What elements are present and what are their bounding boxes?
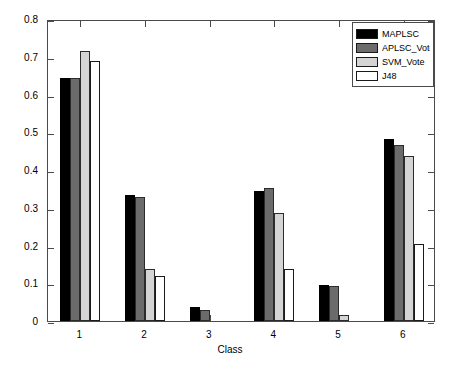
y-tick-mark: [48, 248, 54, 249]
bar-maplsc-class-5: [319, 285, 329, 321]
bar-j48-class-1: [90, 61, 100, 321]
y-tick-label: 0.2: [0, 241, 38, 252]
y-tick-label: 0.7: [0, 52, 38, 63]
y-tick-label: 0: [0, 316, 38, 327]
y-tick-mark-right: [428, 323, 434, 324]
legend-item: APLSC_Vote: [356, 41, 430, 54]
x-tick-mark-top: [80, 21, 81, 27]
bar-j48-class-2: [155, 276, 165, 321]
y-tick-label: 0.8: [0, 14, 38, 25]
x-tick-mark: [210, 315, 211, 321]
x-tick-mark-top: [210, 21, 211, 27]
bar-chart-figure: 00.10.20.30.40.50.60.70.8 123456 Class M…: [0, 0, 460, 366]
x-tick-label: 1: [64, 329, 94, 340]
y-tick-mark-right: [428, 97, 434, 98]
legend-item: SVM_Vote: [356, 55, 430, 68]
x-tick-label: 3: [194, 329, 224, 340]
chart-legend: MAPLSCAPLSC_VoteSVM_VoteJ48: [352, 22, 434, 87]
y-tick-label: 0.6: [0, 90, 38, 101]
y-tick-mark-right: [428, 285, 434, 286]
y-tick-mark-right: [428, 172, 434, 173]
x-tick-mark-top: [145, 21, 146, 27]
y-tick-mark-right: [428, 248, 434, 249]
bar-aplsc_vote-class-5: [329, 286, 339, 321]
legend-swatch-icon: [356, 71, 378, 81]
bar-svm_vote-class-6: [404, 156, 414, 321]
bar-aplsc_vote-class-4: [264, 188, 274, 321]
x-tick-label: 5: [323, 329, 353, 340]
bar-aplsc_vote-class-6: [394, 145, 404, 321]
legend-item: MAPLSC: [356, 27, 430, 40]
y-tick-mark: [48, 172, 54, 173]
y-tick-label: 0.5: [0, 127, 38, 138]
y-tick-mark-right: [428, 134, 434, 135]
bar-svm_vote-class-2: [145, 269, 155, 321]
y-tick-mark: [48, 285, 54, 286]
y-tick-mark: [48, 59, 54, 60]
x-tick-label: 6: [388, 329, 418, 340]
bar-j48-class-6: [414, 244, 424, 321]
y-tick-mark: [48, 97, 54, 98]
bar-svm_vote-class-4: [274, 213, 284, 321]
legend-label: SVM_Vote: [382, 57, 425, 67]
y-tick-label: 0.3: [0, 203, 38, 214]
y-tick-mark: [48, 21, 54, 22]
y-tick-mark: [48, 134, 54, 135]
y-tick-mark: [48, 210, 54, 211]
legend-swatch-icon: [356, 29, 378, 39]
bar-maplsc-class-3: [190, 307, 200, 321]
bar-maplsc-class-6: [384, 139, 394, 321]
bar-maplsc-class-4: [254, 191, 264, 321]
bar-aplsc_vote-class-3: [200, 310, 210, 321]
bar-svm_vote-class-1: [80, 51, 90, 321]
legend-swatch-icon: [356, 57, 378, 67]
bar-aplsc_vote-class-1: [70, 78, 80, 321]
y-tick-mark-right: [428, 210, 434, 211]
x-tick-mark-top: [339, 21, 340, 27]
x-tick-label: 2: [129, 329, 159, 340]
legend-label: MAPLSC: [382, 29, 419, 39]
y-tick-mark: [48, 323, 54, 324]
bar-maplsc-class-1: [60, 78, 70, 321]
bar-maplsc-class-2: [125, 195, 135, 321]
y-tick-label: 0.4: [0, 165, 38, 176]
y-tick-label: 0.1: [0, 278, 38, 289]
bar-aplsc_vote-class-2: [135, 197, 145, 321]
x-axis-title: Class: [0, 344, 460, 355]
x-tick-label: 4: [258, 329, 288, 340]
bar-svm_vote-class-5: [339, 315, 349, 321]
legend-item: J48: [356, 69, 430, 82]
x-tick-mark-top: [274, 21, 275, 27]
legend-swatch-icon: [356, 43, 378, 53]
legend-label: APLSC_Vote: [382, 43, 430, 53]
bar-j48-class-4: [284, 269, 294, 321]
legend-label: J48: [382, 71, 397, 81]
